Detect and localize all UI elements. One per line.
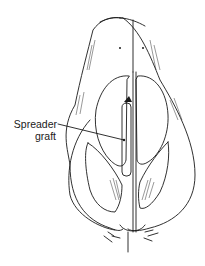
leader-line — [58, 124, 124, 140]
spreader-graft-label-line1: Spreader — [12, 118, 57, 130]
left-lower-lateral-cartilage — [86, 143, 122, 212]
right-upper-lateral-cartilage — [136, 76, 168, 164]
anatomical-illustration: Spreader graft — [0, 0, 205, 266]
right-lower-lateral-cartilage — [139, 142, 169, 208]
left-upper-lateral-cartilage — [95, 76, 129, 166]
outline-right — [123, 18, 195, 231]
spreader-graft-label-line2: graft — [12, 130, 56, 142]
